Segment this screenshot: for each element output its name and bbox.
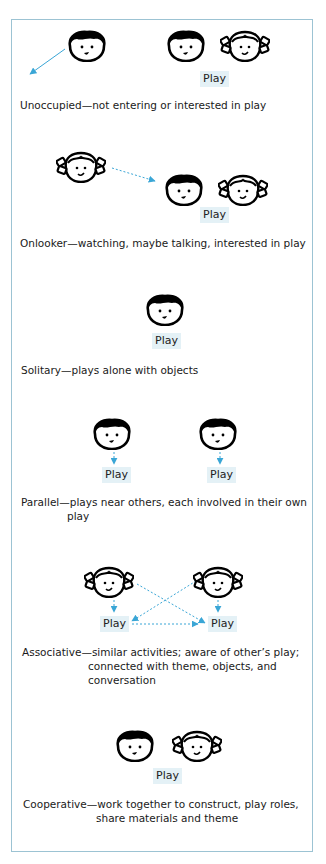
play-label: Play	[208, 616, 237, 632]
unoccupied-description: Unoccupied—not entering or interested in…	[20, 98, 266, 112]
play-label: Play	[200, 71, 229, 87]
girl-face-icon	[84, 566, 134, 598]
boy-face-icon	[165, 30, 207, 62]
girl-face-icon	[220, 30, 270, 62]
play-label: Play	[200, 207, 229, 223]
boy-face-icon	[197, 418, 239, 450]
diagram-frame	[11, 19, 313, 852]
play-label: Play	[100, 616, 129, 632]
solitary-description: Solitary—plays alone with objects	[21, 363, 198, 377]
play-label: Play	[152, 333, 181, 349]
associative-description-cont: connected with theme, objects, and	[88, 659, 277, 673]
parallel-description: Parallel—plays near others, each involve…	[21, 495, 307, 509]
play-label: Play	[207, 467, 236, 483]
associative-description-cont2: conversation	[88, 673, 156, 687]
parallel-description-cont: play	[67, 509, 89, 523]
cooperative-description: Cooperative—work together to construct, …	[23, 797, 299, 811]
cooperative-description-cont: share materials and theme	[96, 811, 238, 825]
boy-face-icon	[66, 30, 108, 62]
girl-face-icon	[218, 174, 268, 206]
girl-face-icon	[56, 151, 106, 183]
play-label: Play	[102, 467, 131, 483]
associative-description: Associative—similar activities; aware of…	[22, 645, 299, 659]
boy-face-icon	[163, 174, 205, 206]
boy-face-icon	[91, 418, 133, 450]
girl-face-icon	[172, 730, 222, 762]
boy-face-icon	[144, 294, 186, 326]
onlooker-description: Onlooker—watching, maybe talking, intere…	[20, 236, 306, 250]
girl-face-icon	[193, 566, 243, 598]
boy-face-icon	[114, 730, 156, 762]
play-label: Play	[153, 768, 182, 784]
